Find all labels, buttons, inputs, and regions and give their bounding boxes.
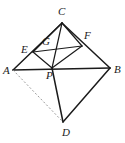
vertex-label-G: G [42, 36, 50, 47]
figure-canvas [0, 0, 125, 143]
segment-A-B [13, 68, 110, 70]
segment-E-P [33, 52, 52, 68]
segment-C-F [62, 23, 82, 46]
geometry-figure: A B C D E F G P [0, 0, 125, 143]
vertex-label-F: F [84, 30, 91, 41]
vertex-label-C: C [58, 6, 65, 17]
segment-P-D [52, 68, 63, 122]
segment-B-D [63, 68, 110, 122]
vertex-label-P: P [46, 70, 53, 81]
vertex-label-B: B [114, 64, 121, 75]
vertex-label-A: A [3, 65, 10, 76]
vertex-label-E: E [21, 44, 28, 55]
vertex-label-D: D [62, 127, 70, 138]
segment-A-D-dashed [13, 70, 63, 122]
